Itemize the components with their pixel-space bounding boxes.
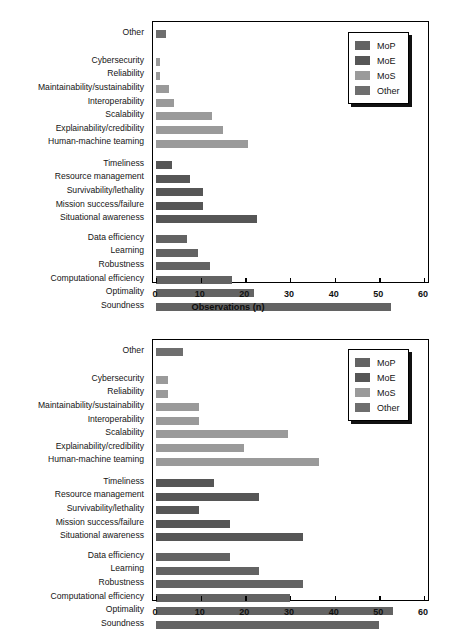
bar — [156, 235, 187, 243]
bar — [156, 72, 160, 80]
bar — [156, 85, 169, 93]
y-axis-label: Mission success/failure — [56, 200, 144, 209]
bar — [156, 533, 303, 541]
bar — [156, 430, 288, 438]
y-axis-label: Robustness — [99, 578, 144, 587]
y-axis-label: Resource management — [55, 172, 144, 181]
x-axis-tick-label: 40 — [329, 607, 339, 617]
bar — [156, 553, 230, 561]
y-axis-label: Scalability — [105, 110, 144, 119]
y-axis-label: Human-machine teaming — [48, 455, 144, 464]
y-axis-label: Computational efficiency — [51, 274, 144, 283]
chart-panel-percent: OtherCybersecurityReliabilityMaintainabi… — [0, 321, 456, 642]
y-axis-label: Optimality — [106, 605, 144, 614]
x-axis-title-observations: Observations (n) — [0, 302, 456, 312]
x-axis-tick-label: 50 — [373, 607, 383, 617]
legend-item: Other — [355, 83, 400, 98]
x-axis-tick-label: 10 — [195, 607, 205, 617]
x-axis-tick — [201, 596, 202, 601]
bar — [156, 348, 183, 356]
legend-label: Other — [377, 403, 400, 413]
bar — [156, 112, 212, 120]
bar — [156, 99, 174, 107]
figure-root: OtherCybersecurityReliabilityMaintainabi… — [0, 0, 456, 642]
x-axis-tick-label: 30 — [284, 289, 294, 299]
y-axis-label: Survivability/lethality — [67, 186, 144, 195]
legend-swatch-icon — [355, 403, 370, 412]
x-axis-tick — [290, 278, 291, 283]
bar — [156, 567, 259, 575]
legend-label: MoP — [377, 41, 396, 51]
legend-item: MoE — [355, 370, 400, 385]
y-axis-label: Robustness — [99, 260, 144, 269]
legend-item: MoP — [355, 355, 400, 370]
y-axis-label: Maintainability/sustainability — [38, 401, 144, 410]
bar — [156, 188, 203, 196]
bar — [156, 376, 168, 384]
x-axis-tick-label: 50 — [373, 289, 383, 299]
bar — [156, 249, 198, 257]
x-axis-tick-label: 60 — [418, 289, 428, 299]
bar — [156, 126, 223, 134]
bar — [156, 215, 257, 223]
x-axis-tick — [245, 278, 246, 283]
y-axis-label: Interoperability — [88, 97, 144, 106]
y-axis-label: Situational awareness — [60, 213, 144, 222]
legend-swatch-icon — [355, 56, 370, 65]
legend-swatch-icon — [355, 41, 370, 50]
bar — [156, 58, 160, 66]
legend-swatch-icon — [355, 373, 370, 382]
x-axis-tick-label: 0 — [152, 607, 157, 617]
y-axis-label: Reliability — [107, 69, 144, 78]
bar — [156, 161, 172, 169]
bar — [156, 417, 199, 425]
x-axis-tick — [156, 596, 157, 601]
legend-label: Other — [377, 86, 400, 96]
legend-swatch-icon — [355, 71, 370, 80]
bar — [156, 140, 248, 148]
y-axis-label: Soundness — [101, 619, 144, 628]
bar — [156, 202, 203, 210]
bar — [156, 276, 232, 284]
y-axis-label: Timeliness — [103, 159, 144, 168]
bar — [156, 458, 319, 466]
bar — [156, 403, 199, 411]
y-axis-label: Resource management — [55, 490, 144, 499]
y-axis-label: Reliability — [107, 387, 144, 396]
x-axis-tick — [156, 278, 157, 283]
x-axis-tick-label: 30 — [284, 607, 294, 617]
legend-item: MoP — [355, 38, 400, 53]
bar — [156, 479, 214, 487]
legend-label: MoS — [377, 388, 396, 398]
legend-label: MoE — [377, 373, 396, 383]
y-axis-label: Other — [123, 28, 145, 37]
y-axis-label: Situational awareness — [60, 531, 144, 540]
legend-label: MoS — [377, 71, 396, 81]
y-axis-label: Data efficiency — [88, 233, 144, 242]
y-axis-label: Explainability/credibility — [56, 124, 144, 133]
y-axis-label: Timeliness — [103, 477, 144, 486]
bar — [156, 607, 393, 615]
y-axis-label: Maintainability/sustainability — [38, 83, 144, 92]
y-axis-label: Explainability/credibility — [56, 442, 144, 451]
x-axis-tick — [379, 596, 380, 601]
y-axis-label: Scalability — [105, 428, 144, 437]
y-axis-label: Cybersecurity — [91, 56, 144, 65]
x-axis-tick-label: 20 — [239, 607, 249, 617]
legend-observations: MoPMoEMoSOther — [348, 32, 409, 104]
legend-item: MoS — [355, 68, 400, 83]
x-axis-tick — [424, 596, 425, 601]
x-axis-tick-label: 60 — [418, 607, 428, 617]
x-axis-tick-label: 40 — [329, 289, 339, 299]
y-axis-label: Human-machine teaming — [48, 137, 144, 146]
y-axis-label: Mission success/failure — [56, 518, 144, 527]
y-axis-label: Optimality — [106, 287, 144, 296]
y-axis-label: Survivability/lethality — [67, 504, 144, 513]
y-axis-label: Data efficiency — [88, 551, 144, 560]
chart-panel-observations: OtherCybersecurityReliabilityMaintainabi… — [0, 0, 456, 321]
legend-percent: MoPMoEMoSOther — [348, 349, 409, 421]
y-axis-label: Interoperability — [88, 415, 144, 424]
y-axis-label: Computational efficiency — [51, 592, 144, 601]
legend-item: MoS — [355, 385, 400, 400]
x-axis-tick-label: 10 — [195, 289, 205, 299]
